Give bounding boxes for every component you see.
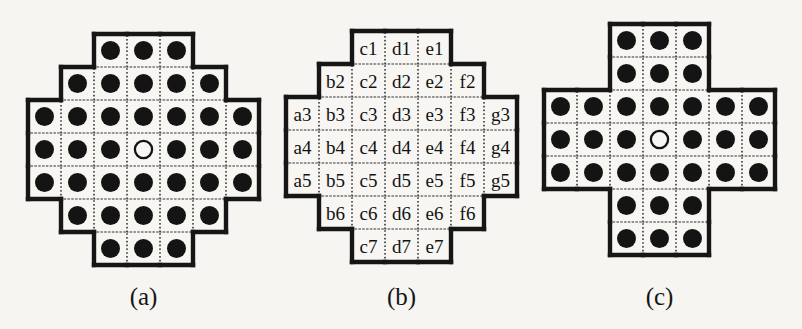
board-svg (22, 28, 265, 271)
peg-icon (200, 206, 219, 225)
cell-label: c4 (360, 137, 378, 158)
cell-label: d4 (392, 137, 412, 158)
peg-icon (683, 229, 702, 248)
cell-label: g4 (491, 137, 511, 158)
peg-icon (200, 107, 219, 126)
peg-icon (716, 97, 735, 116)
cell-label: b5 (326, 170, 345, 191)
board-c-caption: (c) (646, 283, 674, 311)
cell-label: c5 (360, 170, 378, 191)
board-a-figure: (a) (22, 28, 265, 311)
peg-icon (167, 107, 186, 126)
cell-label: g5 (491, 170, 510, 191)
cell-label: e6 (426, 203, 444, 224)
peg-icon (584, 97, 603, 116)
peg-icon (650, 64, 669, 83)
cell-label: c6 (360, 203, 378, 224)
empty-hole-icon (135, 141, 152, 158)
peg-icon (101, 206, 120, 225)
cell-label: f6 (460, 203, 476, 224)
peg-icon (134, 41, 153, 60)
board-svg (538, 18, 781, 261)
peg-icon (35, 140, 54, 159)
peg-icon (749, 163, 768, 182)
peg-icon (716, 130, 735, 149)
cell-label: d6 (392, 203, 411, 224)
peg-icon (617, 64, 636, 83)
cell-label: d1 (392, 38, 411, 59)
board-b-caption: (b) (387, 283, 416, 311)
peg-icon (167, 140, 186, 159)
cell-label: f2 (460, 71, 476, 92)
cell-label: g3 (491, 104, 510, 125)
peg-icon (167, 74, 186, 93)
peg-icon (551, 163, 570, 182)
peg-icon (167, 239, 186, 258)
peg-icon (617, 97, 636, 116)
peg-icon (68, 173, 87, 192)
peg-icon (749, 97, 768, 116)
cell-label: e4 (426, 137, 444, 158)
peg-icon (68, 140, 87, 159)
peg-icon (584, 130, 603, 149)
peg-icon (749, 130, 768, 149)
cell-label: b3 (326, 104, 345, 125)
peg-icon (233, 107, 252, 126)
cell-label: f4 (460, 137, 476, 158)
figure-canvas: (a) c1d1e1b2c2d2e2f2a3b3c3d3e3f3g3a4b4c4… (0, 0, 802, 329)
cell-label: a5 (294, 170, 312, 191)
peg-icon (617, 31, 636, 50)
peg-icon (650, 31, 669, 50)
board-svg: c1d1e1b2c2d2e2f2a3b3c3d3e3f3g3a4b4c4d4e4… (280, 25, 523, 268)
peg-icon (134, 206, 153, 225)
peg-icon (650, 229, 669, 248)
peg-icon (167, 41, 186, 60)
peg-icon (101, 41, 120, 60)
cell-label: e1 (426, 38, 444, 59)
peg-icon (101, 239, 120, 258)
peg-icon (167, 173, 186, 192)
cell-label: a3 (294, 104, 312, 125)
peg-icon (683, 196, 702, 215)
cell-label: b6 (326, 203, 345, 224)
board-a-grid (22, 28, 265, 271)
peg-icon (617, 196, 636, 215)
board-c-grid (538, 18, 781, 261)
peg-icon (200, 140, 219, 159)
cell-label: e5 (426, 170, 444, 191)
peg-icon (200, 74, 219, 93)
peg-icon (101, 173, 120, 192)
peg-icon (683, 130, 702, 149)
peg-icon (650, 196, 669, 215)
peg-icon (101, 107, 120, 126)
peg-icon (134, 239, 153, 258)
cell-label: f5 (460, 170, 476, 191)
peg-icon (683, 97, 702, 116)
cell-label: b2 (326, 71, 345, 92)
cell-label: e7 (426, 236, 444, 257)
peg-icon (101, 74, 120, 93)
cell-label: d7 (392, 236, 411, 257)
peg-icon (101, 140, 120, 159)
peg-icon (68, 206, 87, 225)
cell-label: c1 (360, 38, 378, 59)
peg-icon (551, 130, 570, 149)
cell-label: e3 (426, 104, 444, 125)
cell-label: d2 (392, 71, 411, 92)
peg-icon (650, 163, 669, 182)
board-c-figure: (c) (538, 18, 781, 311)
cell-label: f3 (460, 104, 476, 125)
peg-icon (683, 64, 702, 83)
peg-icon (233, 140, 252, 159)
peg-icon (35, 107, 54, 126)
peg-icon (551, 97, 570, 116)
peg-icon (683, 31, 702, 50)
cell-label: d3 (392, 104, 411, 125)
board-a-caption: (a) (130, 283, 158, 311)
cell-label: e2 (426, 71, 444, 92)
peg-icon (200, 173, 219, 192)
peg-icon (134, 107, 153, 126)
peg-icon (617, 229, 636, 248)
peg-icon (683, 163, 702, 182)
peg-icon (584, 163, 603, 182)
